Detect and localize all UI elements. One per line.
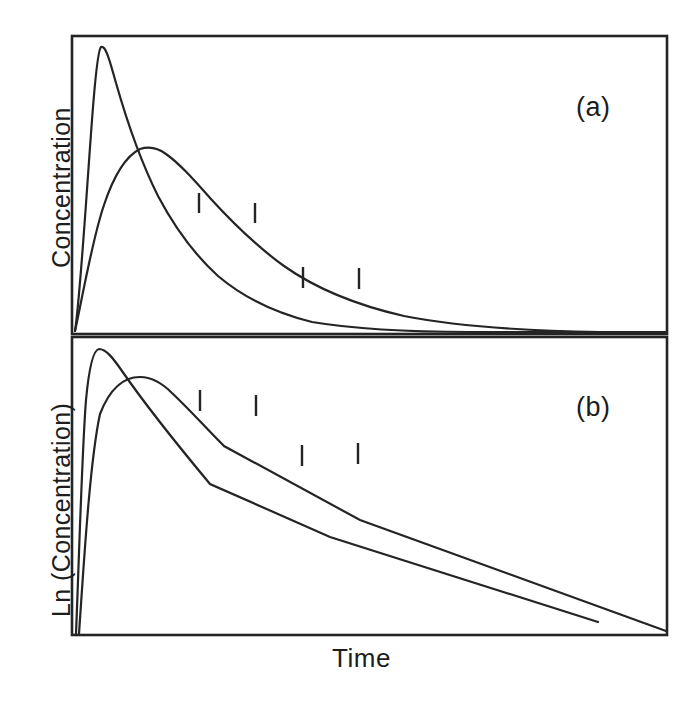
x-axis-label-text: Time: [332, 643, 391, 673]
panel-a-y-axis-label: Concentration: [47, 107, 76, 268]
x-axis-label: Time: [0, 643, 699, 674]
panel-b-axes-frame: [72, 337, 667, 635]
panel-b-tag: (b): [576, 392, 611, 423]
panel-a-curve-slow-distribution: [75, 148, 665, 332]
panel-a-curve-fast-distribution: [75, 47, 665, 332]
panel-b: [72, 337, 667, 635]
panel-a: [72, 36, 667, 334]
figure-container: Concentration Ln (Concentration) (a) (b)…: [0, 0, 699, 703]
panel-b-y-axis-label: Ln (Concentration): [47, 403, 76, 617]
panel-a-axes-frame: [72, 36, 667, 334]
panel-b-curve-fast-distribution: [76, 349, 598, 634]
panel-a-tag: (a): [576, 92, 611, 123]
